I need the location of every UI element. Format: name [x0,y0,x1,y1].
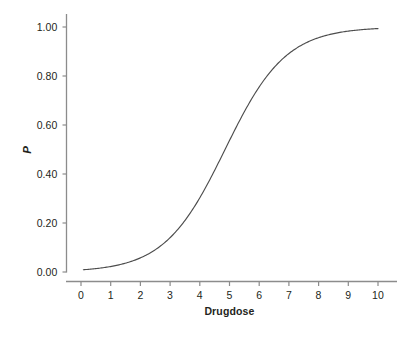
x-tick-label: 2 [137,289,143,301]
x-tick-marks [81,282,378,287]
x-tick-label: 5 [227,289,233,301]
y-tick-label: 1.00 [0,21,58,33]
y-tick-label: 0.80 [0,70,58,82]
plot-canvas [0,0,414,339]
chart-figure: 0.000.200.400.600.801.00 012345678910 P … [0,0,414,339]
y-tick-label: 0.60 [0,119,58,131]
x-tick-label: 6 [256,289,262,301]
y-axis-title: P [21,146,33,154]
y-tick-label: 0.40 [0,168,58,180]
x-tick-label: 8 [316,289,322,301]
x-tick-label: 10 [372,289,384,301]
x-tick-label: 0 [78,289,84,301]
x-tick-label: 3 [167,289,173,301]
x-tick-label: 1 [108,289,114,301]
y-tick-label: 0.20 [0,217,58,229]
x-tick-label: 4 [197,289,203,301]
x-tick-label: 9 [345,289,351,301]
x-axis-title: Drugdose [204,305,254,317]
y-tick-label: 0.00 [0,266,58,278]
x-tick-label: 7 [286,289,292,301]
logistic-curve [83,29,378,270]
